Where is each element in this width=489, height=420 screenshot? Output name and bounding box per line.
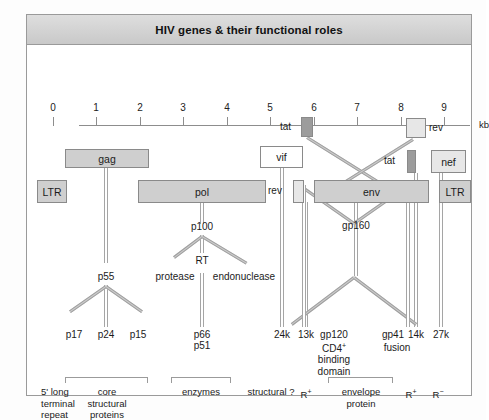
footnote-regulatory-positive-2: R+ bbox=[406, 386, 417, 401]
line-env-to-gp160 bbox=[354, 202, 358, 276]
line-p55-to-p24 bbox=[104, 285, 108, 327]
product-label-p100: p100 bbox=[191, 221, 213, 232]
product-label-endonuclease: endonuclease bbox=[213, 271, 275, 282]
gene-box-vif[interactable]: vif bbox=[260, 146, 303, 168]
ruler-label-6: 6 bbox=[311, 102, 317, 113]
ruler-tick-4 bbox=[227, 117, 228, 126]
product-label-p24: p24 bbox=[98, 329, 115, 340]
footnote-envelope-protein: envelope protein bbox=[342, 386, 381, 409]
ruler-label-9: 9 bbox=[441, 102, 447, 113]
gp41-role-label: fusion bbox=[384, 342, 411, 353]
product-label-14k: 14k bbox=[408, 329, 424, 340]
ruler-label-7: 7 bbox=[354, 102, 360, 113]
product-label-13k: 13k bbox=[298, 329, 314, 340]
ruler-tick-9 bbox=[444, 117, 445, 126]
footnote-core-line-2: structural bbox=[87, 398, 126, 410]
footnote-regulatory-negative: R− bbox=[433, 386, 444, 401]
diagram-canvas: 0 1 2 3 4 5 6 7 8 9 kb bbox=[27, 45, 471, 396]
gene-label-tat-1: tat bbox=[280, 121, 291, 132]
line-rt-to-p66 bbox=[200, 273, 204, 327]
ruler-tick-8 bbox=[401, 117, 402, 126]
product-label-protease: protease bbox=[156, 271, 195, 282]
product-label-p17: p17 bbox=[66, 329, 83, 340]
gp120-role-line-2: binding bbox=[318, 354, 350, 365]
product-label-p51: p51 bbox=[194, 340, 211, 351]
product-label-gp41: gp41 bbox=[382, 329, 404, 340]
footnote-envelope-line-2: protein bbox=[342, 398, 381, 410]
product-label-gp120: gp120 bbox=[320, 329, 348, 340]
footnote-ltr-left-line-3: repeat bbox=[41, 409, 75, 420]
gene-label-rev-2: rev bbox=[429, 122, 443, 133]
line-gp160-to-gp120 bbox=[291, 276, 355, 325]
line-p55-to-p15 bbox=[105, 285, 143, 313]
gp120-role-line-3: domain bbox=[318, 366, 351, 377]
gene-box-tat-1[interactable] bbox=[301, 117, 313, 137]
ruler-tick-2 bbox=[140, 117, 141, 126]
footnote-ltr-left: 5' long terminal repeat bbox=[41, 386, 75, 420]
footnote-ltr-left-line-2: terminal bbox=[41, 398, 75, 410]
gene-box-nef[interactable]: nef bbox=[431, 150, 466, 173]
gene-box-ltr-left[interactable]: LTR bbox=[37, 180, 67, 203]
ruler-tick-1 bbox=[96, 117, 97, 126]
ruler-label-8: 8 bbox=[398, 102, 404, 113]
footnote-enzymes: enzymes bbox=[182, 386, 220, 398]
ruler-label-4: 4 bbox=[224, 102, 230, 113]
ruler-tick-0 bbox=[53, 117, 54, 126]
ruler-label-3: 3 bbox=[180, 102, 186, 113]
footnote-structural-question: structural ? bbox=[248, 386, 295, 398]
gene-box-pol[interactable]: pol bbox=[138, 180, 266, 203]
bracket-envelope-protein bbox=[328, 377, 393, 383]
gene-label-rev-1: rev bbox=[268, 185, 282, 196]
product-label-p55: p55 bbox=[98, 271, 115, 282]
ruler-tick-5 bbox=[270, 117, 271, 126]
gene-box-env[interactable]: env bbox=[314, 180, 429, 203]
product-label-p15: p15 bbox=[130, 329, 147, 340]
gp120-role-line-1: CD4+ bbox=[322, 342, 346, 354]
product-label-p66: p66 bbox=[194, 329, 211, 340]
footnote-envelope-line-1: envelope bbox=[342, 386, 381, 398]
line-env-left-drop bbox=[302, 185, 306, 327]
bracket-core-structural-proteins bbox=[65, 377, 148, 383]
footnote-core-structural-proteins: core structural proteins bbox=[87, 386, 126, 420]
ruler-tick-3 bbox=[183, 117, 184, 126]
ruler-label-5: 5 bbox=[267, 102, 273, 113]
footnote-core-line-1: core bbox=[87, 386, 126, 398]
ruler-label-0: 0 bbox=[50, 102, 56, 113]
figure-panel: HIV genes & their functional roles 0 1 2… bbox=[26, 14, 472, 396]
ruler-tick-7 bbox=[357, 117, 358, 126]
line-p55-to-p17 bbox=[69, 285, 107, 313]
line-env-right-drop bbox=[406, 185, 410, 327]
ruler-tick-6 bbox=[314, 117, 315, 126]
gene-box-rev-1[interactable] bbox=[293, 180, 304, 203]
product-label-gp160: gp160 bbox=[342, 220, 370, 231]
figure-title: HIV genes & their functional roles bbox=[27, 15, 471, 45]
product-label-27k: 27k bbox=[433, 329, 449, 340]
ruler-label-2: 2 bbox=[137, 102, 143, 113]
ruler-label-1: 1 bbox=[93, 102, 99, 113]
gp120-role-superscript: + bbox=[342, 342, 346, 349]
figure-titlebar: HIV genes & their functional roles bbox=[27, 15, 471, 45]
product-label-rt: RT bbox=[195, 255, 208, 266]
footnote-ltr-left-line-1: 5' long bbox=[41, 386, 75, 398]
product-label-24k: 24k bbox=[274, 329, 290, 340]
gene-box-tat-2[interactable] bbox=[407, 150, 416, 173]
gene-box-ltr-right[interactable]: LTR bbox=[439, 180, 471, 203]
footnote-core-line-3: proteins bbox=[87, 409, 126, 420]
line-gag-to-p55 bbox=[104, 167, 108, 263]
bracket-enzymes bbox=[171, 377, 231, 383]
ruler-unit-label: kb bbox=[479, 119, 489, 130]
gene-box-gag[interactable]: gag bbox=[65, 149, 149, 168]
gene-label-tat-2: tat bbox=[384, 155, 395, 166]
gene-box-rev-2[interactable] bbox=[406, 118, 426, 138]
footnote-regulatory-positive-1: R+ bbox=[301, 386, 312, 401]
